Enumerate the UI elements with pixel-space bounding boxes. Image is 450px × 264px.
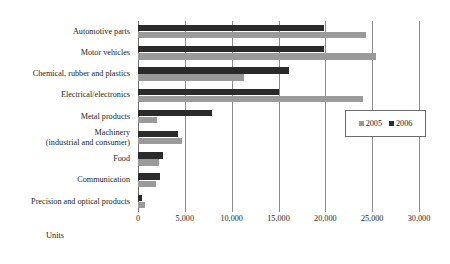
bar-row (138, 63, 419, 84)
legend-label-2006: 2006 (396, 119, 412, 128)
bar-2005 (138, 74, 244, 80)
legend-item-2005: 2005 (359, 119, 382, 128)
x-axis-tick: 0 (136, 214, 140, 223)
bar-2005 (138, 32, 366, 38)
bar-row (138, 42, 419, 63)
chart-legend: 2005 2006 (345, 110, 426, 137)
x-axis-tick: 15,000 (267, 214, 290, 223)
x-axis-ticks: 05,00010,00015,00020,00025,00030,000 (0, 214, 450, 228)
y-axis-label: Electrical/electronics (61, 90, 130, 99)
bar-2005 (138, 53, 376, 59)
bar-2006 (138, 131, 178, 137)
bar-chart: Automotive partsMotor vehiclesChemical, … (0, 0, 450, 264)
legend-swatch-2005-icon (359, 121, 364, 126)
bar-row (138, 21, 419, 42)
bar-2006 (138, 110, 212, 116)
x-axis-tick: 5,000 (176, 214, 194, 223)
bar-2005 (138, 96, 363, 102)
y-axis-label: Metal products (81, 112, 130, 121)
bar-row (138, 170, 419, 191)
legend-label-2005: 2005 (366, 119, 382, 128)
y-axis-label: Automotive parts (73, 27, 130, 36)
y-axis-label: Chemical, rubber and plastics (33, 69, 130, 78)
x-axis-tick: 10,000 (220, 214, 243, 223)
x-axis-title: Units (0, 231, 450, 240)
bar-2006 (138, 89, 279, 95)
y-axis-label: Motor vehicles (81, 48, 130, 57)
page-header-ghost (285, 1, 435, 8)
bar-2006 (138, 173, 160, 179)
y-axis-labels: Automotive partsMotor vehiclesChemical, … (0, 21, 134, 212)
bar-row (138, 191, 419, 212)
bar-2006 (138, 46, 324, 52)
x-axis-tick: 25,000 (361, 214, 384, 223)
bar-2006 (138, 25, 324, 31)
bar-2005 (138, 138, 182, 144)
bar-2006 (138, 152, 163, 158)
x-axis-tick: 30,000 (408, 214, 431, 223)
bar-row (138, 148, 419, 169)
bar-2006 (138, 67, 289, 73)
legend-swatch-2006-icon (389, 121, 394, 126)
x-axis-title-text: Units (46, 231, 64, 240)
y-axis-label: Machinery(industrial and consumer) (2, 128, 130, 147)
y-axis-label: Food (113, 154, 130, 163)
bar-2005 (138, 202, 145, 208)
bar-row (138, 85, 419, 106)
y-axis-label: Precision and optical products (31, 197, 130, 206)
y-axis-label: Communication (77, 175, 130, 184)
x-axis-tick: 20,000 (314, 214, 337, 223)
bar-2006 (138, 195, 142, 201)
legend-item-2006: 2006 (389, 119, 412, 128)
bar-2005 (138, 117, 157, 123)
bar-2005 (138, 159, 159, 165)
bar-2005 (138, 181, 156, 187)
